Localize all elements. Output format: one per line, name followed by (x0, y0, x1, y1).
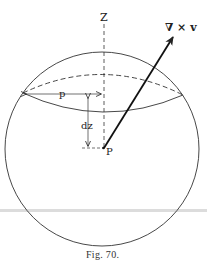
sphere-outline (5, 52, 199, 246)
radius-label: p (59, 88, 65, 99)
curl-vector-arrow (104, 37, 173, 148)
cap-circle-back (23, 74, 183, 95)
figure-diagram: Z ∇ × v p dz P Fig. 70. (0, 0, 207, 269)
point-p-label: P (106, 146, 113, 157)
curl-vector-label: ∇ × v (165, 21, 197, 34)
z-axis-label: Z (100, 11, 108, 24)
figure-caption: Fig. 70. (86, 249, 119, 260)
point-p-dot (102, 147, 105, 150)
dz-label: dz (81, 120, 93, 131)
cap-circle-front (23, 93, 183, 112)
